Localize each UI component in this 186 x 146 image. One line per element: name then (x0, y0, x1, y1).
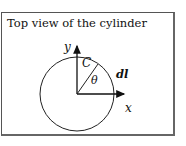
curve-label: C (82, 56, 91, 70)
x-axis-label: x (125, 101, 132, 115)
cylinder-diagram: y x C θ dl (0, 0, 186, 146)
y-axis-label: y (63, 40, 71, 54)
angle-label: θ (91, 74, 98, 87)
element-label: dl (116, 67, 129, 81)
